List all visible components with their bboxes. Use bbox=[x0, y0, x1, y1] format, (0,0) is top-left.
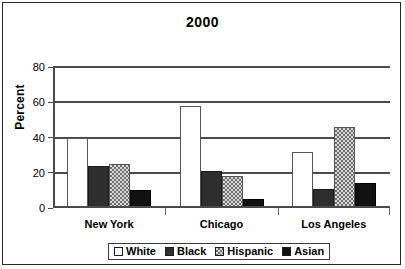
legend-item-hispanic[interactable]: Hispanic bbox=[215, 245, 273, 257]
bar-chicago-black bbox=[201, 171, 222, 208]
chart-title: 2000 bbox=[0, 14, 405, 30]
y-tick-label-60: 60 bbox=[1, 96, 45, 108]
chart-figure: 2000 Percent 020406080 New YorkChicagoLo… bbox=[0, 0, 405, 269]
x-tick-label-new-york: New York bbox=[85, 218, 134, 230]
x-tick-label-chicago: Chicago bbox=[200, 218, 243, 230]
plot-area: 020406080 bbox=[53, 67, 390, 208]
legend-item-black[interactable]: Black bbox=[165, 245, 206, 257]
white-swatch-icon bbox=[114, 247, 123, 256]
legend-label-white: White bbox=[126, 245, 156, 257]
x-tick-label-los-angeles: Los Angeles bbox=[301, 218, 366, 230]
bar-los-angeles-white bbox=[292, 152, 313, 208]
gridline-80 bbox=[53, 66, 390, 68]
gridline-60 bbox=[53, 101, 390, 103]
y-tick-label-0: 0 bbox=[1, 202, 45, 214]
y-tick-label-40: 40 bbox=[1, 132, 45, 144]
x-axis-separator bbox=[278, 208, 279, 215]
legend-label-hispanic: Hispanic bbox=[227, 245, 273, 257]
y-tick-label-80: 80 bbox=[1, 61, 45, 73]
y-tick-mark-20 bbox=[48, 172, 53, 173]
legend-label-black: Black bbox=[177, 245, 206, 257]
bar-new-york-hispanic bbox=[109, 164, 130, 208]
x-axis-labels: New YorkChicagoLos Angeles bbox=[53, 208, 390, 238]
y-tick-label-20: 20 bbox=[1, 167, 45, 179]
asian-swatch-icon bbox=[282, 247, 291, 256]
legend-item-white[interactable]: White bbox=[114, 245, 156, 257]
bar-chicago-hispanic bbox=[222, 176, 243, 208]
black-swatch-icon bbox=[165, 247, 174, 256]
bar-los-angeles-asian bbox=[355, 183, 376, 208]
legend-item-asian[interactable]: Asian bbox=[282, 245, 324, 257]
y-tick-mark-60 bbox=[48, 102, 53, 103]
bar-new-york-white bbox=[67, 138, 88, 209]
hispanic-swatch-icon bbox=[215, 247, 224, 256]
bar-chicago-white bbox=[180, 106, 201, 208]
y-tick-mark-40 bbox=[48, 137, 53, 138]
x-axis-separator bbox=[165, 208, 166, 215]
chart-legend: WhiteBlackHispanicAsian bbox=[108, 243, 330, 260]
bar-los-angeles-hispanic bbox=[334, 127, 355, 208]
x-axis-separator bbox=[389, 208, 390, 215]
y-tick-mark-80 bbox=[48, 67, 53, 68]
bar-new-york-black bbox=[88, 166, 109, 208]
legend-label-asian: Asian bbox=[294, 245, 324, 257]
